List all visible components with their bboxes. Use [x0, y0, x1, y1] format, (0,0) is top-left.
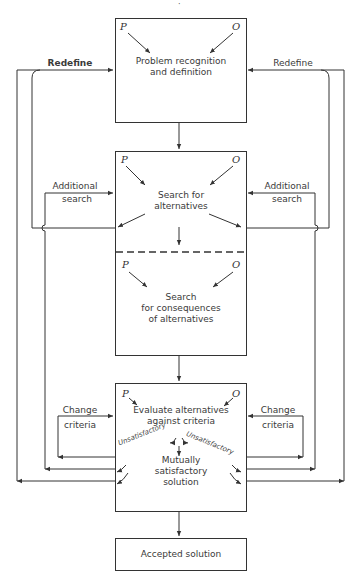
additional-search-left-line1: Additional [50, 181, 100, 192]
change-criteria-left-line1: Change [60, 405, 100, 416]
search-alternatives-line2: alternatives [115, 201, 247, 212]
redefine-left-label: Redefine [45, 58, 95, 69]
change-criteria-right-line2: criteria [258, 420, 298, 431]
mutually-satisfactory-line3: solution [115, 477, 247, 488]
participant-o-label: O [232, 388, 240, 399]
redefine-right-label: Redefine [268, 58, 318, 69]
additional-search-right-line2: search [262, 194, 312, 205]
participant-o-label: O [232, 259, 240, 270]
participant-p-label: P [120, 21, 127, 32]
additional-search-right-line1: Additional [262, 181, 312, 192]
evaluate-line2: against criteria [115, 416, 247, 427]
participant-p-label: P [121, 154, 128, 165]
evaluate-line1: Evaluate alternatives [115, 405, 247, 416]
participant-p-label: P [122, 259, 129, 270]
problem-box-line1: Problem recognition [115, 56, 247, 67]
participant-o-label: O [232, 21, 240, 32]
accepted-solution-label: Accepted solution [115, 549, 247, 560]
problem-box-line2: and definition [115, 67, 247, 78]
search-consequences-line1: Search [115, 292, 247, 303]
page-top-fragment: · [178, 0, 181, 9]
search-alternatives-line1: Search for [115, 190, 247, 201]
mutually-satisfactory-line1: Mutually [115, 455, 247, 466]
search-box [115, 151, 247, 356]
participant-o-label: O [232, 154, 240, 165]
search-consequences-line2: for consequences [115, 303, 247, 314]
change-criteria-left-line2: criteria [60, 420, 100, 431]
change-criteria-right-line1: Change [258, 405, 298, 416]
mutually-satisfactory-line2: satisfactory [115, 466, 247, 477]
participant-p-label: P [122, 388, 129, 399]
search-consequences-line3: of alternatives [115, 314, 247, 325]
additional-search-left-line2: search [52, 194, 102, 205]
